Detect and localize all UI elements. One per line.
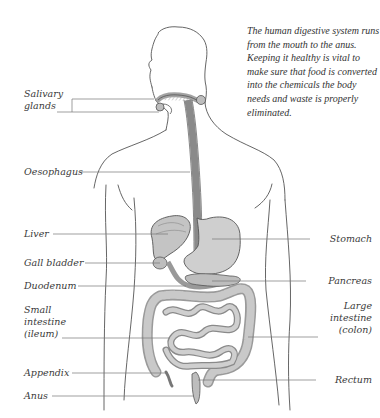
label-line: Rectum — [335, 374, 372, 386]
label-stomach: Stomach — [330, 233, 372, 245]
label-line: (colon) — [330, 324, 372, 336]
label-line: Gall bladder — [24, 257, 83, 269]
label-duodenum: Duodenum — [24, 280, 76, 292]
label-small-intestine: Small intestine (ileum) — [24, 304, 66, 340]
label-line: Large — [330, 300, 372, 312]
stomach-organ — [184, 217, 240, 274]
label-large-intestine: Large intestine (colon) — [330, 300, 372, 336]
mouth-salivary-glands — [156, 95, 206, 114]
label-rectum: Rectum — [335, 374, 372, 386]
label-oesophagus: Oesophagus — [24, 166, 83, 178]
label-line: Small — [24, 304, 66, 316]
label-appendix: Appendix — [24, 367, 69, 379]
label-line: intestine — [330, 312, 372, 324]
label-line: Duodenum — [24, 280, 76, 292]
label-line: Appendix — [24, 367, 69, 379]
label-line: Stomach — [330, 233, 372, 245]
label-gall-bladder: Gall bladder — [24, 257, 83, 269]
appendix-organ — [166, 372, 172, 386]
label-line: Salivary — [24, 88, 63, 100]
label-line: Oesophagus — [24, 166, 83, 178]
label-liver: Liver — [24, 228, 49, 240]
label-line: (ileum) — [24, 328, 66, 340]
label-line: glands — [24, 100, 63, 112]
label-line: intestine — [24, 316, 66, 328]
label-line: Anus — [24, 390, 48, 402]
label-line: Liver — [24, 228, 49, 240]
diagram-caption: The human digestive system runs from the… — [247, 24, 380, 119]
label-line: Pancreas — [328, 275, 372, 287]
label-anus: Anus — [24, 390, 48, 402]
small-intestine-organ — [166, 307, 237, 367]
digestive-system-diagram: The human digestive system runs from the… — [0, 0, 380, 418]
label-pancreas: Pancreas — [328, 275, 372, 287]
label-salivary-glands: Salivary glands — [24, 88, 63, 112]
rectum-organ — [192, 372, 200, 404]
pancreas-organ — [185, 274, 240, 287]
